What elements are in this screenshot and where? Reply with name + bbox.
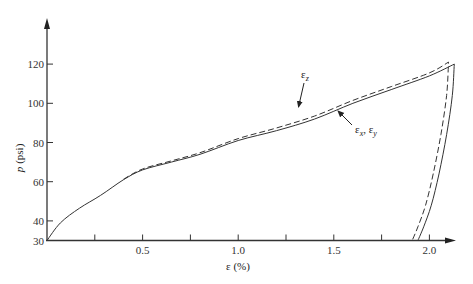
annotation-arrow-z — [299, 83, 305, 107]
x-axis-arrow-icon — [445, 238, 456, 244]
annotation-epsilon-z: εz — [299, 68, 310, 107]
y-axis-arrow-icon — [44, 18, 50, 29]
annotation-epsilon-xy: εx, εy — [338, 111, 377, 138]
y-tick-label: 120 — [28, 58, 45, 70]
x-tick-label: 1.0 — [231, 244, 245, 256]
stress-strain-chart: 0.51.01.52.0 30406080100120 p(psi) ε (%)… — [0, 0, 473, 284]
y-axis-label: p(psi) — [13, 143, 26, 173]
y-tick-label: 60 — [33, 176, 45, 188]
x-tick-label: 1.5 — [327, 244, 341, 256]
series-epsilon-z-curve — [124, 62, 449, 240]
y-tick-label: 100 — [28, 97, 45, 109]
y-tick-label: 80 — [33, 137, 45, 149]
svg-text:εz: εz — [301, 68, 310, 83]
series-group — [47, 62, 454, 240]
y-tick-label: 40 — [33, 215, 45, 227]
annotation-arrow-xy — [338, 111, 352, 125]
y-ticks: 30406080100120 — [28, 58, 54, 246]
axes — [44, 18, 456, 244]
x-axis-label: ε (%) — [226, 260, 250, 273]
svg-text:εx, εy: εx, εy — [355, 123, 377, 138]
x-tick-label: 0.5 — [136, 244, 150, 256]
x-tick-label: 2.0 — [423, 244, 437, 256]
y-tick-label: 30 — [33, 235, 45, 247]
series-epsilon-xy-curve — [47, 64, 454, 240]
x-ticks: 0.51.01.52.0 — [95, 235, 437, 257]
svg-text:p(psi): p(psi) — [13, 143, 26, 173]
